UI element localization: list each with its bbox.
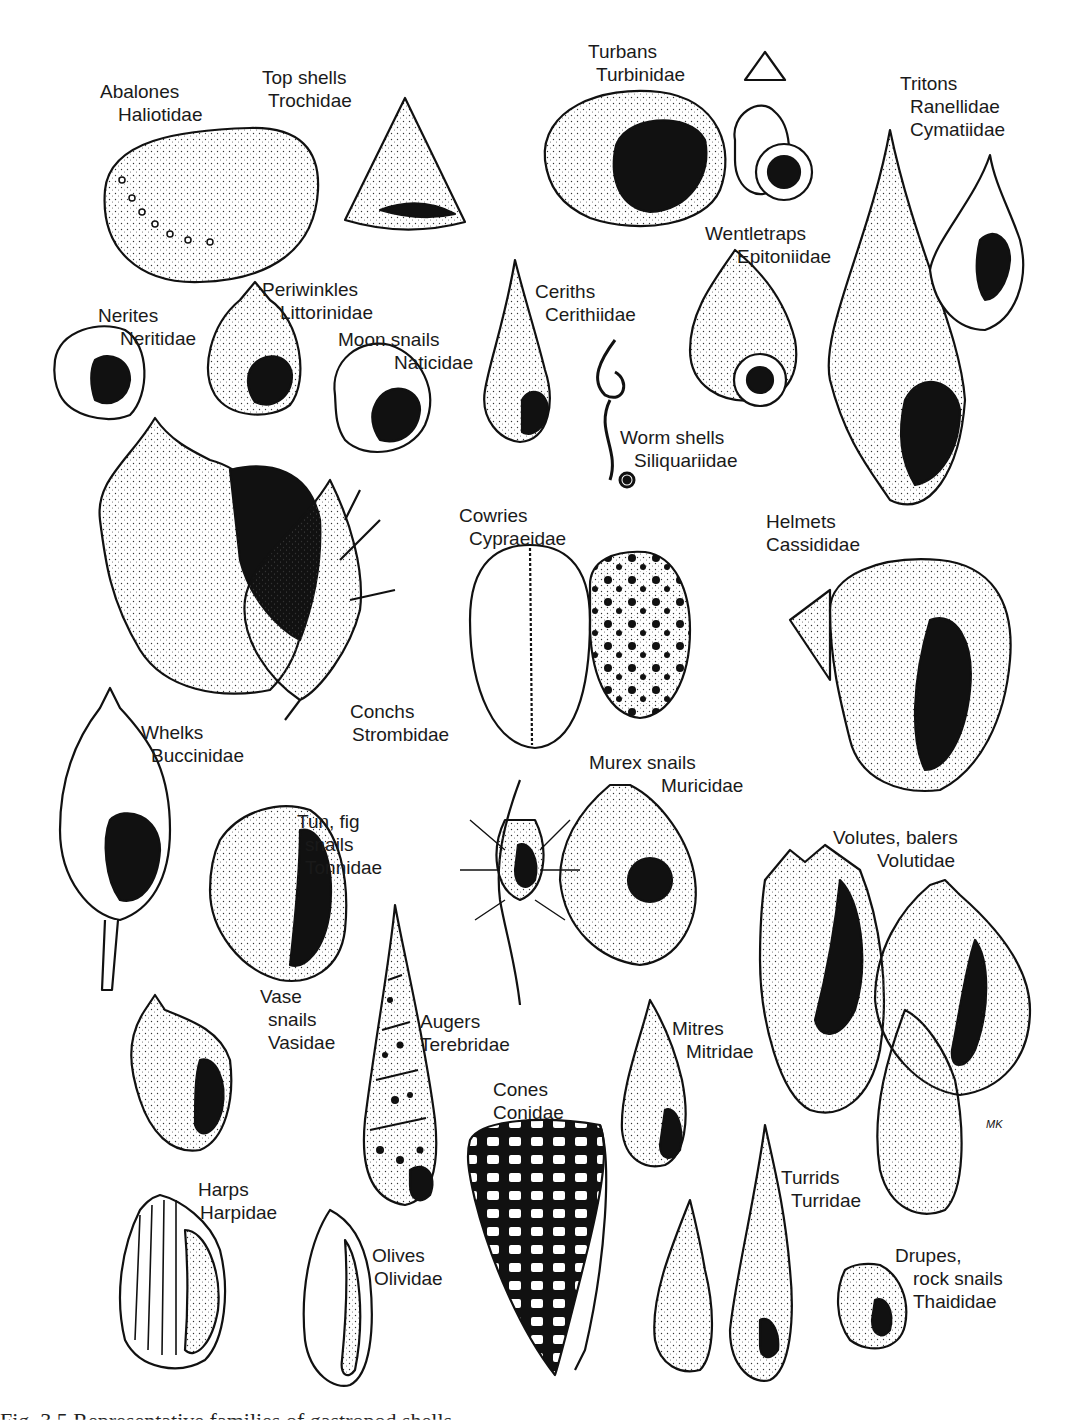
family-name: Harpidae	[198, 1201, 277, 1224]
artist-signature: MK	[986, 1118, 1003, 1130]
common-name: Tritons	[900, 72, 1005, 95]
common-name: Helmets	[766, 510, 860, 533]
label-whelks: WhelksBuccinidae	[141, 721, 244, 767]
common-name: Murex snails	[589, 751, 743, 774]
shell-illustrations	[0, 0, 1079, 1425]
vase-shell	[131, 995, 231, 1151]
common-name: Augers	[420, 1010, 510, 1033]
turrid-shell	[654, 1125, 792, 1381]
volute-shell	[760, 845, 1030, 1214]
label-tun-fig: Tun, figsnailsTonnidae	[297, 810, 382, 879]
family-name: Cypraeidae	[459, 527, 566, 550]
label-harps: HarpsHarpidae	[198, 1178, 277, 1224]
common-name: Top shells	[262, 66, 352, 89]
label-periwinkles: PeriwinklesLittorinidae	[262, 278, 373, 324]
label-abalones: AbalonesHaliotidae	[100, 80, 203, 126]
family-name: Cassididae	[766, 533, 860, 556]
family-name: Littorinidae	[262, 301, 373, 324]
common-name: Turrids	[781, 1166, 861, 1189]
label-mitres: MitresMitridae	[672, 1017, 754, 1063]
common-name: Cones	[493, 1078, 564, 1101]
label-moon-snails: Moon snailsNaticidae	[338, 328, 473, 374]
family-name: Turridae	[781, 1189, 861, 1212]
family-name: Haliotidae	[100, 103, 203, 126]
common-name: Moon snails	[338, 328, 473, 351]
conch-shell	[100, 418, 395, 720]
label-murex: Murex snailsMuricidae	[589, 751, 743, 797]
common-name: Abalones	[100, 80, 203, 103]
triton-shell	[829, 130, 1023, 504]
label-augers: AugersTerebridae	[420, 1010, 510, 1056]
common-name: Worm shells	[620, 426, 738, 449]
common-name: Harps	[198, 1178, 277, 1201]
family-name: Naticidae	[338, 351, 473, 374]
label-worm-shells: Worm shellsSiliquariidae	[620, 426, 738, 472]
family-name-secondary: Tonnidae	[297, 856, 382, 879]
family-name: Volutidae	[833, 849, 958, 872]
wentletrap-shell	[690, 250, 796, 406]
label-cones: ConesConidae	[493, 1078, 564, 1124]
label-tritons: TritonsRanellidaeCymatiidae	[900, 72, 1005, 141]
common-name: Whelks	[141, 721, 244, 744]
family-name: Conidae	[493, 1101, 564, 1124]
family-name-secondary: Thaididae	[895, 1290, 1003, 1313]
cone-shell	[468, 1120, 606, 1375]
family-name: Neritidae	[98, 327, 196, 350]
common-name: Nerites	[98, 304, 196, 327]
family-name: Cerithiidae	[535, 303, 636, 326]
family-name: Mitridae	[672, 1040, 754, 1063]
common-name: Conchs	[350, 700, 449, 723]
murex-shell	[460, 780, 696, 1005]
label-top-shells: Top shellsTrochidae	[262, 66, 352, 112]
common-name: Olives	[372, 1244, 443, 1267]
family-name: rock snails	[895, 1267, 1003, 1290]
common-name: Periwinkles	[262, 278, 373, 301]
family-name: Terebridae	[420, 1033, 510, 1056]
label-turbans: TurbansTurbinidae	[588, 40, 685, 86]
family-name: Muricidae	[589, 774, 743, 797]
common-name: Tun, fig	[297, 810, 382, 833]
common-name: Cowries	[459, 504, 566, 527]
common-name: Turbans	[588, 40, 685, 63]
common-name: Mitres	[672, 1017, 754, 1040]
common-name: Vase	[260, 985, 335, 1008]
label-helmets: HelmetsCassididae	[766, 510, 860, 556]
common-name: Volutes, balers	[833, 826, 958, 849]
family-name: snails	[297, 833, 382, 856]
family-name: Trochidae	[262, 89, 352, 112]
abalone-shell	[105, 128, 319, 282]
helmet-shell	[790, 559, 1011, 791]
top-shell	[345, 98, 465, 230]
family-name-secondary: Vasidae	[260, 1031, 335, 1054]
common-name: Drupes,	[895, 1244, 1003, 1267]
label-wentletraps: WentletrapsEpitoniidae	[705, 222, 831, 268]
common-name: Wentletraps	[705, 222, 831, 245]
family-name: Turbinidae	[588, 63, 685, 86]
label-vase: VasesnailsVasidae	[260, 985, 335, 1054]
family-name: Siliquariidae	[620, 449, 738, 472]
family-name-secondary: Cymatiidae	[900, 118, 1005, 141]
label-drupes: Drupes,rock snailsThaididae	[895, 1244, 1003, 1313]
family-name: snails	[260, 1008, 335, 1031]
common-name: Ceriths	[535, 280, 636, 303]
family-name: Strombidae	[350, 723, 449, 746]
family-name: Epitoniidae	[705, 245, 831, 268]
family-name: Olividae	[372, 1267, 443, 1290]
label-cowries: CowriesCypraeidae	[459, 504, 566, 550]
olive-shell	[304, 1210, 372, 1386]
family-name: Buccinidae	[141, 744, 244, 767]
label-turrids: TurridsTurridae	[781, 1166, 861, 1212]
label-conchs: ConchsStrombidae	[350, 700, 449, 746]
label-nerites: NeritesNeritidae	[98, 304, 196, 350]
family-name: Ranellidae	[900, 95, 1005, 118]
label-olives: OlivesOlividae	[372, 1244, 443, 1290]
label-ceriths: CerithsCerithiidae	[535, 280, 636, 326]
cowrie-shell	[470, 545, 690, 748]
label-volutes: Volutes, balersVolutidae	[833, 826, 958, 872]
